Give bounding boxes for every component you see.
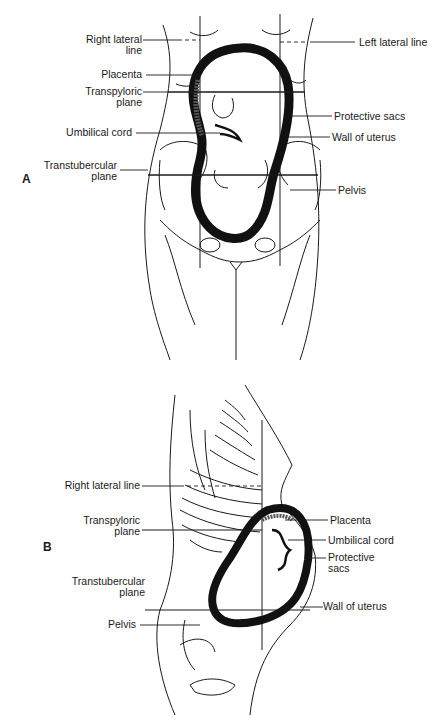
- uterus-wall-shape: [193, 48, 289, 239]
- label-left-lateral-line: Left lateral line: [359, 37, 427, 48]
- lateral-torso-illustration: [0, 380, 447, 722]
- label-right-lateral-line: Right lateral line: [40, 34, 142, 56]
- label-pelvis: Pelvis: [26, 619, 136, 630]
- uterus-wall-shape-lateral: [212, 508, 308, 623]
- label-umbilical-cord: Umbilical cord: [328, 535, 394, 546]
- label-protective-sacs: Protective sacs: [334, 111, 405, 122]
- label-transpyloric-plane: Transpyloric plane: [30, 515, 140, 537]
- label-right-lateral-line: Right lateral line: [30, 480, 140, 491]
- figure-a-anterior-view: A Right lateral line Placenta Transpylor…: [0, 0, 447, 360]
- label-wall-of-uterus: Wall of uterus: [323, 601, 387, 612]
- label-transtubercular-plane: Transtubercular plane: [15, 160, 117, 182]
- label-placenta: Placenta: [40, 69, 142, 80]
- label-protective-sacs: Protective sacs: [328, 552, 375, 574]
- label-transtubercular-plane: Transtubercular plane: [35, 576, 145, 598]
- label-placenta: Placenta: [330, 515, 371, 526]
- figure-b-lateral-view: B Right lateral line Transpyloric plane …: [0, 380, 447, 722]
- label-pelvis: Pelvis: [338, 185, 366, 196]
- label-umbilical-cord: Umbilical cord: [30, 127, 132, 138]
- panel-letter-b: B: [43, 540, 52, 554]
- label-wall-of-uterus: Wall of uterus: [332, 132, 396, 143]
- label-transpyloric-plane: Transpyloric plane: [40, 86, 142, 108]
